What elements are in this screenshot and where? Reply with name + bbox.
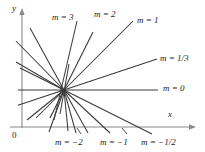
slope-label-m-neg-2: m = −2 xyxy=(55,138,83,147)
slope-label-m-1: m = 1 xyxy=(137,16,159,25)
line-family xyxy=(16,21,158,134)
origin-label: 0 xyxy=(12,131,17,140)
line-m-1 xyxy=(36,21,133,118)
line-upper-left-moderate xyxy=(16,41,64,90)
diagram-canvas xyxy=(0,0,205,152)
line-upper-left-steep xyxy=(30,28,64,90)
slope-label-m-0: m = 0 xyxy=(163,84,185,93)
leader-m-neg2 xyxy=(77,128,81,134)
slope-label-m-1-over-3: m = 1/3 xyxy=(160,54,189,63)
slope-family-diagram: y x 0 m = 3 m = 2 m = 1 m = 1/3 m = 0 m … xyxy=(0,0,205,152)
slope-label-m-neg-1-over-2: m = −1/2 xyxy=(141,138,176,147)
slope-label-m-neg-1: m = −1 xyxy=(100,138,128,147)
x-axis-label: x xyxy=(168,110,172,119)
slope-label-m-3: m = 3 xyxy=(52,13,74,22)
leader-m-neg1 xyxy=(122,128,127,134)
y-axis-label: y xyxy=(12,4,16,13)
line-m-neg1over2 xyxy=(20,68,152,134)
label-leaders xyxy=(77,128,127,134)
slope-label-m-2: m = 2 xyxy=(94,10,116,19)
